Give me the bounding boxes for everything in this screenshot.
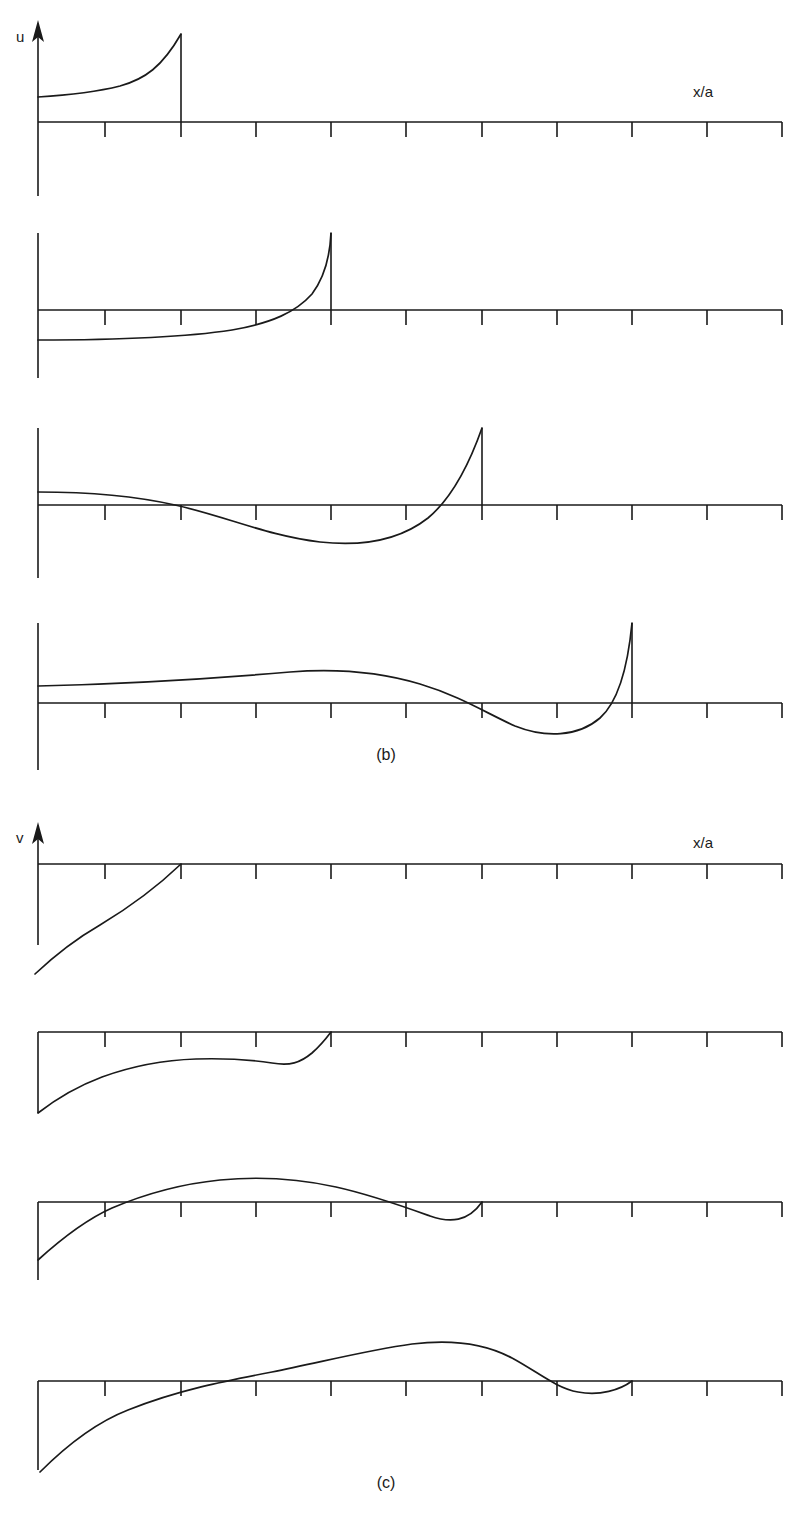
- profile-curve: [38, 1178, 482, 1260]
- v-panel-2: [38, 1032, 782, 1113]
- ordinate-label-v: v: [16, 829, 24, 846]
- profile-curve: [38, 233, 331, 340]
- profile-curve: [38, 623, 632, 734]
- figure-canvas: u x/a: [0, 0, 802, 1514]
- group-caption-c: (c): [377, 1474, 396, 1491]
- profile-curve: [38, 1032, 331, 1113]
- group-c-v: v x/a: [16, 822, 782, 1491]
- v-panel-3: [38, 1178, 782, 1280]
- group-b-u: u x/a: [16, 20, 782, 770]
- v-panel-1: [32, 822, 782, 974]
- ordinate-label-u: u: [16, 28, 24, 45]
- figure-root: u x/a: [0, 0, 802, 1514]
- abscissa-label-u: x/a: [693, 83, 714, 100]
- u-panel-4: [38, 623, 782, 770]
- profile-curve: [38, 428, 482, 544]
- profile-curve: [35, 864, 181, 974]
- u-panel-2: [38, 233, 782, 378]
- v-panel-4: [38, 1342, 782, 1472]
- u-panel-1: [32, 20, 782, 196]
- u-panel-3: [38, 428, 782, 578]
- profile-curve: [38, 34, 181, 97]
- abscissa-label-v: x/a: [693, 834, 714, 851]
- profile-curve: [40, 1342, 632, 1472]
- group-caption-b: (b): [376, 746, 396, 763]
